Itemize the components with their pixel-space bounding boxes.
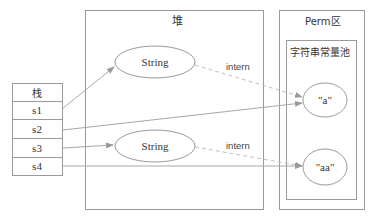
heap-string-label-1: String [142, 56, 169, 68]
jvm-string-memory-diagram: 堆 Perm区 字符串常量池 栈 s1 s2 s3 s4 String Stri… [0, 0, 375, 218]
heap-title: 堆 [172, 15, 183, 28]
heap-string-object-1: String [115, 46, 195, 78]
arrow-s2-to-pool-a [63, 103, 302, 130]
intern-label-top: intern [226, 61, 250, 72]
pool-title: 字符串常量池 [290, 46, 350, 58]
pool-entry-a: "a" [303, 83, 347, 117]
stack-var-s4: s4 [32, 160, 42, 172]
perm-title: Perm区 [305, 16, 341, 27]
pool-entry-aa: "aa" [303, 149, 347, 185]
heap-string-object-2: String [115, 130, 195, 162]
arrow-s1-to-string-1 [62, 67, 114, 109]
intern-label-bottom: intern [226, 140, 250, 151]
stack-table: 栈 s1 s2 s3 s4 [13, 84, 63, 176]
heap-string-label-2: String [142, 140, 169, 152]
arrow-s3-to-string-2 [63, 145, 113, 148]
stack-var-s1: s1 [32, 104, 42, 116]
stack-var-s3: s3 [32, 142, 42, 154]
pool-entry-aa-label: "aa" [316, 161, 335, 173]
pool-entry-a-label: "a" [318, 94, 332, 106]
stack-title: 栈 [32, 87, 42, 99]
stack-var-s2: s2 [32, 123, 42, 135]
